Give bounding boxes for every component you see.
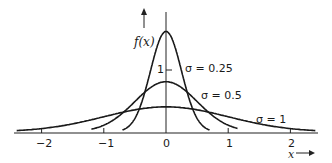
- x-arrow-head-icon: [309, 150, 315, 156]
- series-label-sigma-1: σ = 1: [256, 114, 286, 125]
- x-tick-label: −1: [98, 138, 114, 149]
- y-tick-label-1: 1: [157, 64, 164, 75]
- x-tick-label: −2: [36, 138, 52, 149]
- series-label-sigma-0.5: σ = 0.5: [201, 90, 242, 101]
- normal-distribution-chart: f(x) 1 −2 −1 0 1 2 x σ = 0.25 σ = 0.5 σ …: [0, 0, 332, 163]
- series-label-sigma-0.25: σ = 0.25: [185, 63, 233, 74]
- y-axis-label: f(x): [134, 36, 155, 48]
- x-axis-label: x: [288, 149, 294, 160]
- y-arrow-head-icon: [141, 8, 147, 15]
- x-tick-label: 1: [226, 138, 233, 149]
- x-tick-label: 0: [163, 138, 170, 149]
